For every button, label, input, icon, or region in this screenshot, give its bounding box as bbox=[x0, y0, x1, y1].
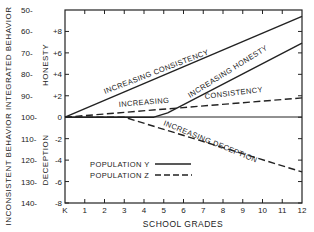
y-tick-label: -2 bbox=[55, 135, 63, 144]
y-outer-tick-label: 70- bbox=[21, 49, 33, 58]
y-outer-tick-label: 100- bbox=[21, 113, 37, 122]
y-outer-tick-label: 50- bbox=[21, 6, 33, 15]
series-line-0 bbox=[65, 16, 302, 117]
legend-label-population-y: POPULATION Y bbox=[90, 160, 150, 169]
y-outer-tick-label: 120- bbox=[21, 156, 37, 165]
x-tick-label: K bbox=[62, 206, 68, 215]
x-tick-label: 7 bbox=[201, 206, 206, 215]
x-tick-label: 5 bbox=[162, 206, 167, 215]
y-outer-tick-label: 110- bbox=[21, 135, 37, 144]
x-tick-label: 9 bbox=[241, 206, 246, 215]
x-axis-label: SCHOOL GRADES bbox=[143, 219, 223, 229]
y-tick-label: +6 bbox=[53, 49, 63, 58]
legend: POPULATION Y POPULATION Z bbox=[90, 160, 192, 180]
y-tick-label: +4 bbox=[53, 70, 63, 79]
series-line-2 bbox=[65, 98, 302, 117]
y-tick-label: +2 bbox=[53, 92, 63, 101]
y-tick-label: -4 bbox=[55, 156, 63, 165]
x-tick-label: 1 bbox=[83, 206, 88, 215]
x-ticks: K123456789101112 bbox=[62, 10, 307, 215]
y-ticks-outer: 50-60-70-80-90-100-110-120-130-140- bbox=[21, 6, 37, 208]
annotation-increasing-z: INCREASING bbox=[118, 96, 169, 109]
series-line-1 bbox=[65, 43, 302, 117]
chart: +8+6+4+20-2-4-6-8 50-60-70-80-90-100-110… bbox=[0, 0, 314, 232]
y-outer-tick-label: 140- bbox=[21, 199, 37, 208]
y-outer-tick-label: 90- bbox=[21, 92, 33, 101]
x-tick-label: 10 bbox=[258, 206, 267, 215]
y-tick-label: 0 bbox=[58, 113, 63, 122]
y-tick-label: -6 bbox=[55, 178, 63, 187]
y-axis-label-outer: INCONSISTENT BEHAVIOR INTEGRATED BEHAVIO… bbox=[4, 6, 13, 225]
series-lines bbox=[65, 16, 302, 172]
annotation-consistency-z: CONSISTENCY bbox=[204, 85, 263, 101]
x-tick-label: 12 bbox=[298, 206, 307, 215]
y-tick-label: +8 bbox=[53, 27, 63, 36]
y-axis-label-deception: DECEPTION bbox=[41, 134, 50, 185]
annotation-increasing-deception: INCREASING DECEPTION bbox=[162, 119, 259, 165]
x-tick-label: 11 bbox=[278, 206, 287, 215]
x-tick-label: 6 bbox=[181, 206, 186, 215]
x-tick-label: 4 bbox=[142, 206, 147, 215]
y-outer-tick-label: 60- bbox=[21, 27, 33, 36]
y-outer-tick-label: 130- bbox=[21, 178, 37, 187]
x-tick-label: 3 bbox=[122, 206, 127, 215]
y-outer-tick-label: 80- bbox=[21, 70, 33, 79]
legend-label-population-z: POPULATION Z bbox=[90, 171, 149, 180]
x-tick-label: 8 bbox=[221, 206, 226, 215]
y-axis-label-honesty: HONESTY bbox=[41, 44, 50, 86]
x-tick-label: 2 bbox=[102, 206, 107, 215]
